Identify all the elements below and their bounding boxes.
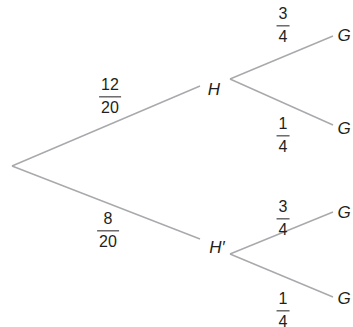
probability-tree-diagram: H H′ G G G G 12 20 8 20 3 4 1 4 3 4 1 4 [0, 0, 353, 327]
numerator: 3 [277, 199, 290, 215]
denominator: 20 [99, 101, 121, 117]
node-g-from-h-lower: G [337, 120, 350, 137]
probability-h: 12 20 [99, 77, 121, 116]
fraction-bar [277, 135, 290, 136]
fraction-bar [99, 96, 121, 97]
probability-g-given-h-prime-lower: 1 4 [277, 291, 290, 327]
denominator: 20 [97, 235, 119, 251]
numerator: 8 [102, 211, 115, 227]
node-h: H [208, 81, 220, 98]
numerator: 12 [99, 77, 121, 93]
fraction-bar [97, 230, 119, 231]
probability-g-given-h-prime-upper: 3 4 [277, 199, 290, 238]
fraction-bar [277, 218, 290, 219]
denominator: 4 [277, 30, 290, 46]
node-g-from-h-prime-lower: G [337, 290, 350, 307]
denominator: 4 [277, 223, 290, 239]
node-g-from-h-prime-upper: G [337, 204, 350, 221]
fraction-bar [277, 25, 290, 26]
tree-branches [0, 0, 353, 327]
numerator: 1 [277, 116, 290, 132]
node-g-from-h-upper: G [337, 27, 350, 44]
denominator: 4 [277, 140, 290, 156]
numerator: 1 [277, 291, 290, 307]
node-h-prime: H′ [209, 239, 224, 256]
fraction-bar [277, 310, 290, 311]
probability-g-given-h-lower: 1 4 [277, 116, 290, 155]
probability-h-prime: 8 20 [97, 211, 119, 250]
probability-g-given-h-upper: 3 4 [277, 6, 290, 45]
numerator: 3 [277, 6, 290, 22]
denominator: 4 [277, 315, 290, 327]
